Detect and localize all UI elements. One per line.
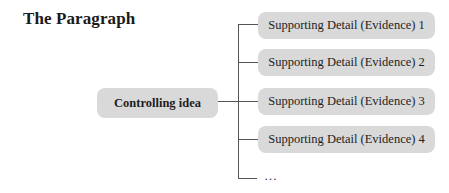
supporting-detail-label: Supporting Detail (Evidence) 3: [268, 94, 425, 109]
connector-main: [218, 101, 238, 102]
connector-branch-2: [238, 62, 258, 63]
connector-branch-4: [238, 139, 258, 140]
connector-branch-more: [238, 178, 257, 179]
supporting-detail-label: Supporting Detail (Evidence) 1: [268, 18, 425, 33]
supporting-detail-node: Supporting Detail (Evidence) 1: [258, 12, 435, 39]
continuation-ellipsis: …: [264, 168, 279, 184]
controlling-idea-label: Controlling idea: [114, 96, 201, 111]
connector-branch-3: [238, 101, 258, 102]
supporting-detail-node: Supporting Detail (Evidence) 4: [258, 126, 435, 153]
connector-branch-1: [238, 24, 258, 25]
diagram-title: The Paragraph: [23, 9, 135, 29]
controlling-idea-node: Controlling idea: [97, 88, 218, 118]
supporting-detail-node: Supporting Detail (Evidence) 3: [258, 88, 435, 115]
supporting-detail-label: Supporting Detail (Evidence) 4: [268, 132, 425, 147]
supporting-detail-node: Supporting Detail (Evidence) 2: [258, 49, 435, 76]
supporting-detail-label: Supporting Detail (Evidence) 2: [268, 55, 425, 70]
